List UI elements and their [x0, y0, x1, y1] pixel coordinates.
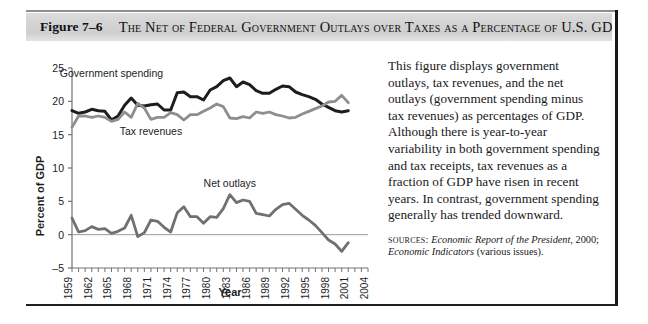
x-axis-title: Year	[218, 286, 242, 298]
series-line	[72, 95, 348, 127]
top-rule	[26, 10, 615, 12]
chart: 2520151050–5 195919621965196819711974197…	[30, 46, 370, 301]
y-tick-label: 10	[52, 162, 64, 174]
figure-frame: Figure 7–6 The Net of Federal Government…	[26, 10, 618, 306]
x-tick-label: 2001	[339, 277, 350, 300]
series-label: Government spending	[60, 67, 163, 79]
x-tick-label: 1980	[201, 277, 212, 300]
caption-column: This figure displays government outlays,…	[388, 58, 600, 259]
figure-header: Figure 7–6 The Net of Federal Government…	[26, 13, 612, 41]
sources-plain-1: 2000;	[573, 234, 599, 245]
sources-italic-2: Economic Indicators	[388, 246, 474, 257]
x-tick-label: 1992	[280, 277, 291, 300]
x-tick-label: 1974	[162, 277, 173, 300]
x-tick-label: 1971	[142, 277, 153, 300]
y-tick-label: 15	[52, 129, 64, 141]
x-axis: 1959196219651968197119741977198019831986…	[63, 268, 370, 299]
x-tick-label: 1995	[300, 277, 311, 300]
figure-title: The Net of Federal Government Outlays ov…	[119, 19, 612, 36]
x-tick-label: 1968	[122, 277, 133, 300]
series-label: Tax revenues	[120, 125, 182, 137]
x-tick-label: 1962	[83, 277, 94, 300]
x-tick-label: 1998	[320, 277, 331, 300]
series-line	[72, 78, 348, 120]
caption-text: This figure displays government outlays,…	[388, 58, 600, 224]
series-label: Net outlays	[204, 177, 257, 189]
x-tick-label: 1977	[181, 277, 192, 300]
series-lines	[72, 78, 348, 251]
x-tick-label: 1989	[260, 277, 271, 300]
y-tick-label: –5	[52, 262, 64, 274]
x-tick-label: 1959	[63, 277, 74, 300]
frame-bottom-border	[26, 304, 618, 306]
sources-label: sources:	[388, 233, 429, 245]
sources-plain-2: (various issues).	[474, 246, 544, 257]
chart-svg: 2520151050–5 195919621965196819711974197…	[30, 46, 370, 301]
frame-right-border	[615, 10, 618, 306]
x-tick-label: 2004	[359, 277, 370, 300]
x-tick-label: 1986	[241, 277, 252, 300]
series-annotations: Government spendingTax revenuesNet outla…	[60, 67, 256, 189]
y-tick-label: 5	[58, 195, 64, 207]
series-line	[72, 195, 348, 252]
sources-italic-1: Economic Report of the President,	[431, 234, 573, 245]
y-axis-title: Percent of GDP	[34, 156, 46, 237]
y-tick-label: 0	[58, 229, 64, 241]
y-tick-label: 20	[52, 95, 64, 107]
y-axis: 2520151050–5	[52, 62, 72, 274]
x-tick-label: 1965	[102, 277, 113, 300]
sources-note: sources: Economic Report of the Presiden…	[388, 233, 600, 259]
figure-number: Figure 7–6	[40, 19, 103, 35]
